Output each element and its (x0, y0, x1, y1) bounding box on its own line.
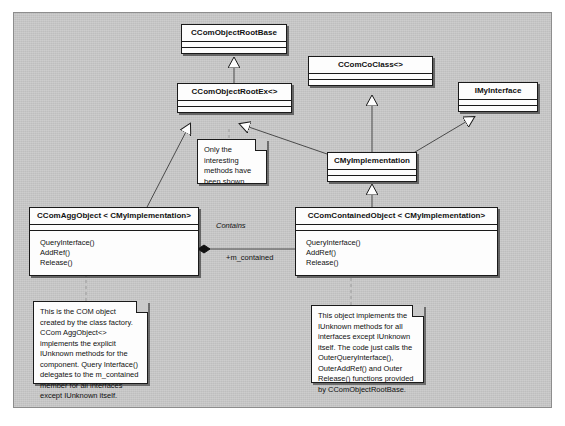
class-operations-compartment (182, 48, 286, 53)
class-name-ccomaggobject: CComAggObject < CMyImplementation> (30, 208, 198, 225)
class-operations-compartment (459, 106, 537, 111)
class-operations-compartment (178, 107, 291, 112)
note-only-interesting[interactable]: Only the interesting methods have been s… (197, 139, 267, 184)
association-role-label-m-contained: +m_contained (226, 253, 273, 262)
class-box-ccomobjectrootbase[interactable]: CComObjectRootBase (181, 24, 287, 54)
class-box-cmyimplementation[interactable]: CMyImplementation (327, 152, 417, 182)
note-com-object[interactable]: This is the COM object created by the cl… (33, 301, 148, 384)
class-name-ccomcontainedobject: CComContainedObject < CMyImplementation> (296, 208, 497, 225)
association-label-contains: Contains (216, 221, 246, 230)
diagram-page: CComObjectRootBase CComCoClass<> IMyInte… (0, 0, 565, 426)
generalization-myimpl-to-imyinterface (410, 117, 474, 155)
class-box-imyinterface[interactable]: IMyInterface (458, 82, 538, 112)
operation-item: QueryInterface() (306, 238, 497, 248)
class-name-cmyimplementation: CMyImplementation (328, 153, 416, 170)
class-name-imyinterface: IMyInterface (459, 83, 537, 100)
note-fold-icon (255, 139, 267, 151)
operation-item: Release() (306, 258, 497, 268)
class-box-ccomcontainedobject[interactable]: CComContainedObject < CMyImplementation>… (295, 207, 498, 276)
class-box-ccomcoclass[interactable]: CComCoClass<> (308, 56, 433, 86)
generalization-aggobject-to-rootex (145, 124, 190, 211)
note-text: Only the interesting methods have been s… (204, 145, 259, 187)
operation-item: Release() (40, 258, 198, 268)
note-contained-object[interactable]: This object implements the IUnknown meth… (311, 305, 424, 383)
class-name-ccomobjectrootbase: CComObjectRootBase (182, 25, 286, 42)
class-name-ccomcoclass: CComCoClass<> (309, 57, 432, 74)
note-fold-icon (412, 305, 424, 317)
class-box-ccomobjectrootex[interactable]: CComObjectRootEx<> (177, 83, 292, 113)
note-text: This object implements the IUnknown meth… (318, 311, 416, 395)
class-name-ccomobjectrootex: CComObjectRootEx<> (178, 84, 291, 101)
class-operations-ccomaggobject: QueryInterface() AddRef() Release() (30, 231, 198, 275)
class-operations-ccomcontainedobject: QueryInterface() AddRef() Release() (296, 231, 497, 275)
note-fold-icon (136, 301, 148, 313)
operation-item: AddRef() (40, 248, 198, 258)
operation-item: QueryInterface() (40, 238, 198, 248)
class-operations-compartment (328, 176, 416, 181)
operation-item: AddRef() (306, 248, 497, 258)
note-text: This is the COM object created by the cl… (40, 307, 140, 402)
class-box-ccomaggobject[interactable]: CComAggObject < CMyImplementation> Query… (29, 207, 199, 276)
class-operations-compartment (309, 80, 432, 85)
